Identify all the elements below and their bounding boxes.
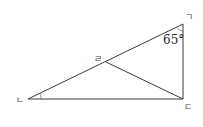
vertex-label-digeut: ㄷ — [184, 102, 192, 112]
angle-arc-nieun — [40, 93, 41, 99]
triangle-diagram: 65° ㄱ ㄴ ㄷ ㄹ — [0, 0, 203, 127]
vertex-label-rieul: ㄹ — [94, 54, 102, 64]
vertex-label-nieun: ㄴ — [16, 95, 24, 105]
angle-arc-giyeok — [177, 27, 183, 31]
angle-label-giyeok: 65° — [163, 33, 184, 47]
segment-rieul-digeut — [106, 62, 183, 99]
vertex-label-giyeok: ㄱ — [185, 12, 193, 22]
